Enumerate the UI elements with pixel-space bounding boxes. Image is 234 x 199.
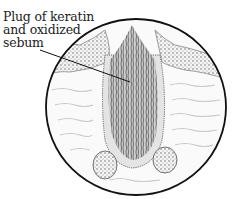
sebaceous-gland-right: [153, 147, 177, 173]
comedo-illustration: [0, 0, 234, 199]
sebaceous-gland-left: [93, 151, 117, 179]
skin-tissue: [40, 15, 234, 199]
